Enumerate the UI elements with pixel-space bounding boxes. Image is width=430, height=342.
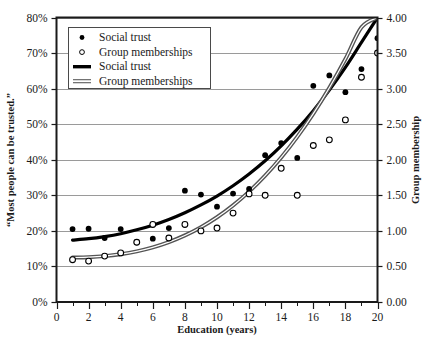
y-tick-label-left: 50%	[26, 118, 48, 130]
x-tick-label: 10	[211, 311, 223, 323]
chart-figure: 02468101214161820 0%10%20%30%40%50%60%70…	[0, 0, 430, 342]
data-point-group-membership	[230, 210, 236, 216]
y-tick-label-right: 1.50	[387, 189, 407, 201]
legend-label: Group memberships	[99, 46, 193, 59]
data-point-social-trust	[343, 89, 349, 95]
y-tick-label-right: 2.50	[387, 118, 407, 130]
x-tick-label: 16	[308, 311, 320, 323]
x-tick-label: 12	[243, 311, 255, 323]
data-point-social-trust	[310, 83, 316, 89]
data-point-social-trust	[166, 225, 172, 231]
data-point-group-membership	[246, 191, 252, 197]
data-point-group-membership	[182, 222, 188, 228]
data-point-social-trust	[150, 236, 156, 242]
y-tick-label-left: 80%	[26, 12, 48, 24]
x-tick-label: 2	[86, 311, 92, 323]
x-tick-label: 20	[372, 311, 384, 323]
y-tick-label-left: 60%	[26, 83, 48, 95]
y-tick-label-right: 1.00	[387, 225, 407, 237]
data-point-group-membership	[118, 250, 124, 256]
data-point-group-membership	[278, 165, 284, 171]
y-tick-label-right: 0.50	[387, 260, 407, 272]
data-point-social-trust	[70, 226, 76, 232]
data-point-social-trust	[278, 140, 284, 146]
x-tick-label: 18	[340, 311, 352, 323]
data-point-social-trust	[118, 226, 124, 232]
data-point-group-membership	[198, 228, 204, 234]
y-tick-label-left: 40%	[26, 154, 48, 166]
x-axis-title: Education (years)	[177, 324, 257, 336]
data-point-group-membership	[150, 222, 156, 228]
y-tick-label-right: 4.00	[387, 12, 407, 24]
x-tick-label: 0	[54, 311, 60, 323]
y-tick-label-right: 0.00	[387, 296, 407, 308]
y-tick-label-right: 3.00	[387, 83, 407, 95]
data-point-social-trust	[214, 204, 220, 210]
chart-background	[0, 0, 430, 342]
data-point-social-trust	[359, 66, 365, 72]
y-axis-title-left: “Most people can be trusted.”	[5, 93, 16, 227]
data-point-group-membership	[86, 258, 92, 264]
data-point-social-trust	[182, 188, 188, 194]
y-tick-label-right: 2.00	[387, 154, 407, 166]
legend-marker-open-circle-icon	[80, 50, 85, 55]
y-tick-label-left: 10%	[26, 260, 48, 272]
scatter-chart: 02468101214161820 0%10%20%30%40%50%60%70…	[0, 0, 430, 342]
y-tick-label-left: 70%	[26, 47, 48, 59]
x-tick-label: 6	[150, 311, 156, 323]
data-point-social-trust	[86, 226, 92, 232]
x-tick-label: 4	[118, 311, 124, 323]
data-point-group-membership	[134, 239, 140, 245]
data-point-group-membership	[166, 235, 172, 241]
legend-marker-filled-circle-icon	[80, 35, 85, 40]
data-point-social-trust	[102, 235, 108, 241]
legend-label: Social trust	[99, 60, 152, 72]
y-axis-title-right: Group membership	[410, 116, 421, 204]
data-point-group-membership	[359, 74, 365, 80]
x-tick-label: 8	[182, 311, 188, 323]
data-point-social-trust	[230, 191, 236, 197]
x-tick-label: 14	[275, 311, 287, 323]
legend-label: Group memberships	[99, 75, 193, 88]
data-point-group-membership	[102, 253, 108, 259]
data-point-group-membership	[294, 192, 300, 198]
data-point-group-membership	[70, 257, 76, 263]
data-point-social-trust	[326, 73, 332, 79]
data-point-group-membership	[343, 117, 349, 123]
y-tick-labels-right: 0.000.501.001.502.002.503.003.504.00	[387, 12, 407, 309]
y-tick-label-left: 0%	[32, 296, 48, 308]
data-point-group-membership	[262, 192, 268, 198]
data-point-social-trust	[262, 152, 268, 158]
chart-legend: Social trustGroup membershipsSocial trus…	[69, 28, 211, 89]
legend-label: Social trust	[99, 31, 152, 43]
y-tick-labels-left: 0%10%20%30%40%50%60%70%80%	[26, 12, 48, 309]
y-tick-label-left: 30%	[26, 189, 48, 201]
y-tick-label-right: 3.50	[387, 47, 407, 59]
y-tick-label-left: 20%	[26, 225, 48, 237]
data-point-group-membership	[326, 137, 332, 143]
data-point-social-trust	[198, 192, 204, 198]
data-point-group-membership	[214, 225, 220, 231]
data-point-social-trust	[294, 155, 300, 161]
data-point-group-membership	[310, 143, 316, 149]
